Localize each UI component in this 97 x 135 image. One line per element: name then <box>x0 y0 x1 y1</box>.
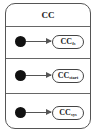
initial-state-icon <box>15 107 26 118</box>
state-cc-start: CCstart <box>52 69 84 83</box>
state-cc-sys: CCsys <box>52 106 84 120</box>
region-3: CCsys <box>6 94 90 129</box>
initial-state-icon <box>15 70 26 81</box>
state-cc-fs: CCfs <box>52 35 84 49</box>
region-2: CCstart <box>6 59 90 93</box>
region-1: CCfs <box>6 27 90 58</box>
composite-state-title: CC <box>6 10 90 20</box>
transition-arrow-icon <box>26 41 51 42</box>
transition-arrow-icon <box>26 112 51 113</box>
initial-state-icon <box>15 36 26 47</box>
transition-arrow-icon <box>26 75 51 76</box>
composite-state-cc: CC CCfs CCstart CCsys <box>5 3 91 129</box>
